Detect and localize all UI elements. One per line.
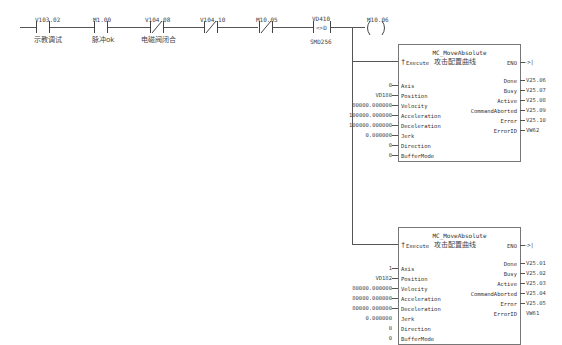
pin-wire	[520, 100, 525, 101]
output-value[interactable]: V25.01	[526, 260, 546, 266]
pin-done: Done	[504, 78, 517, 84]
pin-buffermode: BufferMode	[401, 153, 434, 159]
contact-nc-v104-10[interactable]	[204, 21, 218, 33]
pin-wire	[520, 90, 525, 91]
pin-wire	[392, 145, 398, 146]
pin-wire	[520, 273, 525, 274]
pin-velocity: Velocity	[401, 103, 428, 109]
output-value[interactable]: V25.09	[526, 107, 546, 113]
pin-wire	[392, 95, 398, 96]
pin-error: Error	[500, 301, 517, 307]
contact-comment: 脉冲ok	[92, 36, 114, 44]
pin-eno: ENO	[507, 60, 517, 66]
input-value[interactable]: 100000.000000	[349, 112, 392, 118]
output-value[interactable]: VW62	[526, 127, 539, 133]
input-value[interactable]: 80000.000000	[352, 295, 392, 301]
contact-no-v103-02[interactable]	[36, 21, 50, 33]
nc-slash-icon	[259, 21, 273, 33]
pin-direction: Direction	[401, 143, 431, 149]
pin-wire	[392, 85, 398, 86]
pin-wire	[520, 120, 525, 121]
pin-error: Error	[500, 118, 517, 124]
output-value[interactable]: V25.05	[526, 300, 546, 306]
output-value[interactable]: VW61	[526, 310, 539, 316]
pin-axis: Axis	[401, 83, 414, 89]
execute-comment: 攻击配置曲线	[434, 241, 476, 249]
block-title: MC_MoveAbsolute	[399, 232, 520, 239]
pin-wire	[392, 125, 398, 126]
input-value[interactable]: 0	[389, 335, 392, 341]
rung-wire	[218, 27, 258, 28]
rung-wire	[273, 27, 313, 28]
branch-wire-vertical	[352, 27, 353, 244]
rung-wire	[331, 27, 365, 28]
pin-busy: Busy	[504, 88, 517, 94]
eno-output: ->|	[524, 59, 534, 65]
pin-wire	[520, 263, 525, 264]
contact-nc-v104-08[interactable]	[150, 21, 164, 33]
pin-buffermode: BufferMode	[401, 336, 434, 342]
pin-execute: Execute	[406, 243, 429, 249]
nc-slash-icon	[150, 21, 164, 33]
compare-operator: <>D	[316, 24, 327, 31]
input-value[interactable]: 0.000000	[366, 132, 393, 138]
pin-active: Active	[497, 281, 517, 287]
eno-output: ->|	[524, 242, 534, 248]
mc-moveabsolute-block-1[interactable]: MC_MoveAbsolute † Execute 攻击配置曲线 ENO Axi…	[398, 44, 521, 162]
rung-wire	[164, 27, 204, 28]
rung-wire	[50, 27, 94, 28]
pin-acceleration: Acceleration	[401, 296, 441, 302]
pin-velocity: Velocity	[401, 286, 428, 292]
pin-wire	[392, 268, 398, 269]
pin-active: Active	[497, 98, 517, 104]
branch-wire-to-block1	[352, 61, 398, 62]
output-value[interactable]: V25.02	[526, 270, 546, 276]
input-value[interactable]: 80000.000000	[352, 285, 392, 291]
pin-wire	[392, 135, 398, 136]
pin-done: Done	[504, 261, 517, 267]
contact-nc-m10-05[interactable]	[259, 21, 273, 33]
pin-commandaborted: CommandAborted	[471, 108, 517, 114]
execute-comment: 攻击配置曲线	[434, 58, 476, 66]
output-value[interactable]: V25.07	[526, 87, 546, 93]
pin-wire	[520, 110, 525, 111]
pin-wire	[392, 155, 398, 156]
input-value[interactable]: 80000.000000	[352, 102, 392, 108]
block-title: MC_MoveAbsolute	[399, 49, 520, 56]
pin-deceleration: Deceleration	[401, 123, 441, 129]
contact-comment: 示教调试	[34, 36, 62, 44]
pin-wire	[392, 298, 398, 299]
pin-wire	[520, 283, 525, 284]
input-value[interactable]: VD182	[375, 275, 392, 281]
output-value[interactable]: V25.04	[526, 290, 546, 296]
input-value[interactable]: VD180	[375, 92, 392, 98]
mc-moveabsolute-block-2[interactable]: MC_MoveAbsolute † Execute 攻击配置曲线 ENO Axi…	[398, 227, 521, 345]
input-value[interactable]: 0	[389, 325, 392, 331]
contact-comment: 电磁阀闭合	[141, 36, 176, 44]
pin-wire	[520, 303, 525, 304]
rung-wire	[108, 27, 150, 28]
pin-wire	[392, 288, 398, 289]
pin-busy: Busy	[504, 271, 517, 277]
output-value[interactable]: V25.03	[526, 280, 546, 286]
pin-deceleration: Deceleration	[401, 306, 441, 312]
output-value[interactable]: V25.08	[526, 97, 546, 103]
pin-wire	[520, 80, 525, 81]
coil-icon[interactable]	[364, 20, 388, 36]
pin-errorid: ErrorID	[494, 311, 517, 317]
output-value[interactable]: V25.06	[526, 77, 546, 83]
rung-wire-left	[20, 27, 36, 28]
input-value[interactable]: 0.000000	[366, 315, 393, 321]
input-value[interactable]: 100000.000000	[349, 122, 392, 128]
pin-wire	[392, 115, 398, 116]
pin-direction: Direction	[401, 326, 431, 332]
execute-edge-icon: †	[401, 242, 405, 248]
pin-wire	[392, 105, 398, 106]
branch-wire-to-block2	[352, 244, 398, 245]
contact-no-m1-00[interactable]	[94, 21, 108, 33]
input-value[interactable]: 80000.000000	[352, 305, 392, 311]
pin-position: Position	[401, 276, 428, 282]
compare-contact[interactable]: <>D	[313, 21, 331, 33]
pin-errorid: ErrorID	[494, 128, 517, 134]
output-value[interactable]: V25.10	[526, 117, 546, 123]
